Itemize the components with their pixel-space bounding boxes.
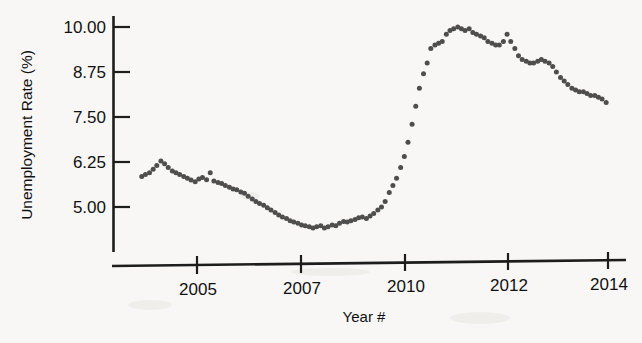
chart-figure: 10.00 8.75 7.50 6.25 5.00 2005 2007 2010… bbox=[0, 0, 642, 343]
data-point bbox=[166, 165, 171, 170]
y-tick-label-0: 10.00 bbox=[63, 18, 106, 37]
x-tick-label-3: 2012 bbox=[490, 276, 528, 295]
data-point bbox=[402, 154, 407, 159]
data-point bbox=[482, 35, 487, 40]
data-point bbox=[413, 104, 418, 109]
y-tick-label-4: 5.00 bbox=[73, 198, 106, 217]
data-point bbox=[547, 61, 552, 66]
x-tick-label-1: 2007 bbox=[283, 279, 321, 298]
data-point bbox=[512, 46, 517, 51]
y-tick-label-1: 8.75 bbox=[73, 63, 106, 82]
data-point bbox=[390, 183, 395, 188]
y-tick-label-3: 6.25 bbox=[73, 153, 106, 172]
data-point bbox=[516, 53, 521, 58]
data-point bbox=[398, 165, 403, 170]
data-point bbox=[508, 39, 513, 44]
data-point bbox=[421, 71, 426, 76]
x-axis-title: Year # bbox=[343, 308, 386, 325]
data-point bbox=[562, 79, 567, 84]
data-point bbox=[405, 140, 410, 145]
data-point bbox=[394, 176, 399, 181]
data-point bbox=[505, 32, 510, 37]
data-point bbox=[497, 43, 502, 48]
data-point bbox=[600, 97, 605, 102]
data-point bbox=[425, 61, 430, 66]
data-point bbox=[550, 64, 555, 69]
y-tick-label-2: 7.50 bbox=[73, 108, 106, 127]
data-point bbox=[379, 205, 384, 210]
data-point bbox=[387, 190, 392, 195]
data-point bbox=[554, 70, 559, 75]
data-point bbox=[147, 170, 152, 175]
data-point bbox=[151, 167, 156, 172]
y-axis-title: Unemployment Rate (%) bbox=[18, 50, 35, 220]
data-point bbox=[246, 194, 251, 199]
data-point bbox=[208, 170, 213, 175]
data-point bbox=[154, 163, 159, 168]
data-point bbox=[204, 177, 209, 182]
data-point bbox=[558, 75, 563, 80]
x-tick-label-0: 2005 bbox=[179, 280, 217, 299]
data-point bbox=[383, 199, 388, 204]
data-point bbox=[467, 26, 472, 31]
data-point bbox=[440, 39, 445, 44]
x-tick-label-2: 2010 bbox=[387, 277, 425, 296]
data-point bbox=[371, 211, 376, 216]
data-point bbox=[417, 86, 422, 91]
data-point bbox=[444, 32, 449, 37]
data-point bbox=[565, 82, 570, 87]
x-tick-label-4: 2014 bbox=[590, 275, 628, 294]
scatter-plot: 10.00 8.75 7.50 6.25 5.00 2005 2007 2010… bbox=[0, 0, 642, 343]
data-point bbox=[604, 100, 609, 105]
data-point bbox=[428, 46, 433, 51]
data-point bbox=[501, 39, 506, 44]
data-point bbox=[410, 122, 415, 127]
data-point bbox=[162, 161, 167, 166]
